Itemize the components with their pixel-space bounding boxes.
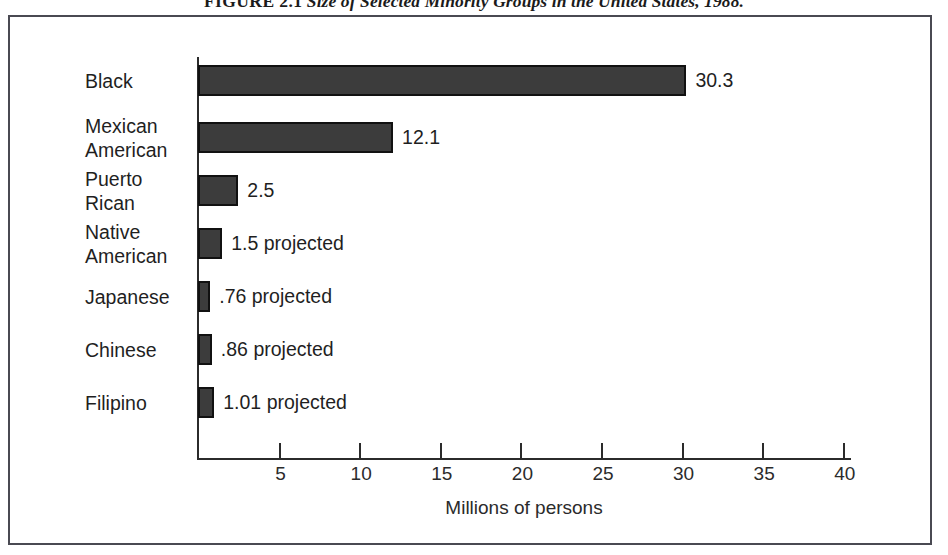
x-axis-tick	[843, 443, 845, 458]
bar-value-label: 1.5 projected	[231, 228, 344, 259]
bar	[198, 281, 210, 312]
bar	[198, 387, 214, 418]
x-axis-tick-label: 25	[573, 463, 633, 485]
x-axis-tick	[520, 443, 522, 458]
bar	[198, 228, 222, 259]
category-label: Filipino	[85, 391, 193, 415]
x-axis-tick	[359, 443, 361, 458]
category-label: Black	[85, 69, 193, 93]
x-axis-tick	[279, 443, 281, 458]
x-axis-tick-label: 15	[412, 463, 472, 485]
bar-value-label: .76 projected	[219, 281, 332, 312]
bar-value-label: 2.5	[247, 175, 274, 206]
x-axis-tick	[440, 443, 442, 458]
bar	[198, 334, 212, 365]
x-axis-tick-label: 30	[654, 463, 714, 485]
bar	[198, 65, 686, 96]
category-label: Native American	[85, 220, 193, 268]
bar-value-label: 12.1	[402, 122, 440, 153]
x-axis-tick	[601, 443, 603, 458]
x-axis-line	[197, 458, 851, 460]
x-axis-tick-label: 5	[251, 463, 311, 485]
x-axis-title: Millions of persons	[197, 497, 851, 519]
x-axis-tick-label: 35	[734, 463, 794, 485]
x-axis-tick-label: 10	[331, 463, 391, 485]
bar-value-label: .86 projected	[221, 334, 334, 365]
category-label: Japanese	[85, 285, 193, 309]
x-axis-tick-label: 40	[815, 463, 875, 485]
bar	[198, 175, 238, 206]
bar-value-label: 1.01 projected	[223, 387, 347, 418]
category-label: Mexican American	[85, 114, 193, 162]
x-axis-tick-label: 20	[492, 463, 552, 485]
x-axis-tick	[682, 443, 684, 458]
category-label: Chinese	[85, 338, 193, 362]
bar-chart: 510152025303540 30.3Black12.1Mexican Ame…	[0, 0, 948, 555]
bar	[198, 122, 393, 153]
category-label: Puerto Rican	[85, 167, 193, 215]
bar-value-label: 30.3	[695, 65, 733, 96]
x-axis-tick	[762, 443, 764, 458]
